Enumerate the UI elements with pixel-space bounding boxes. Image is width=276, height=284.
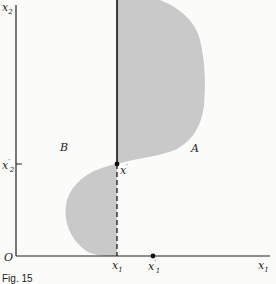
shaded-region — [66, 0, 205, 256]
x2-prime-label: x′2 — [2, 159, 14, 174]
figure-caption: Fig. 15 — [2, 273, 33, 284]
point-x1-prime — [151, 254, 156, 259]
region-b-label: B — [60, 142, 68, 153]
x2-axis-label: x2 — [2, 2, 13, 16]
point-x-prime — [115, 162, 120, 167]
origin-label: O — [4, 252, 13, 263]
x1-axis-label: x1 — [258, 260, 269, 274]
point-x-prime-label: x′ — [120, 164, 128, 176]
region-a-label: A — [191, 143, 199, 154]
x1-prime-label: x′1 — [148, 260, 160, 275]
x1-bar-label: x1 — [112, 260, 123, 274]
